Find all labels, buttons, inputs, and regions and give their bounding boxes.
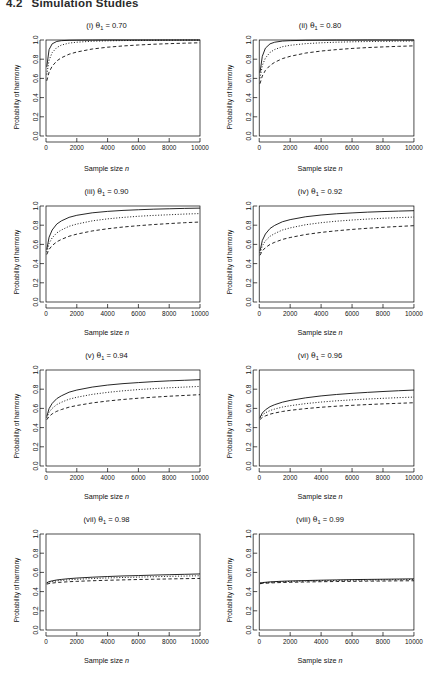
x-axis-tick-label: 6000 xyxy=(345,144,360,151)
panel-title: (iv) θ1 = 0.92 xyxy=(213,187,427,196)
panel-theta-subscript: 1 xyxy=(100,25,103,31)
panel-title: (viii) θ1 = 0.99 xyxy=(213,515,427,524)
x-axis-tick-label: 6000 xyxy=(131,638,146,645)
curve-dashed xyxy=(47,43,200,81)
curve-dashed xyxy=(260,46,414,84)
y-axis-tick-label: 0.8 xyxy=(245,548,252,557)
y-axis-tick-label: 0.2 xyxy=(32,606,39,615)
panel-theta-subscript: 1 xyxy=(317,519,320,525)
curve-dotted xyxy=(260,217,414,253)
x-axis-tick-label: 2000 xyxy=(70,474,85,481)
x-axis-tick-label: 4000 xyxy=(100,310,115,317)
panel-roman-numeral: (vi) xyxy=(298,351,311,360)
x-axis-tick-label: 4000 xyxy=(314,474,329,481)
x-axis-tick-label: 6000 xyxy=(345,638,360,645)
x-axis-tick-label: 8000 xyxy=(376,638,391,645)
x-axis-tick-label: 2000 xyxy=(70,310,85,317)
plot-area: 0.00.20.40.60.81.00200040006000800010000 xyxy=(213,362,427,494)
curve-solid xyxy=(260,390,414,417)
y-axis-tick-label: 1.0 xyxy=(32,201,39,210)
curve-dashed xyxy=(47,578,200,584)
curve-solid xyxy=(47,40,200,67)
x-axis-label-variable: n xyxy=(125,164,129,173)
x-axis-tick-label: 8000 xyxy=(162,474,177,481)
y-axis-tick-label: 1.0 xyxy=(245,529,252,538)
y-axis-tick-label: 0.6 xyxy=(32,240,39,249)
page-header: 4.2Simulation Studies xyxy=(6,0,139,9)
plot-area: 0.00.20.40.60.81.00200040006000800010000 xyxy=(0,198,213,330)
panel-theta-symbol: θ xyxy=(310,21,315,30)
plot-frame xyxy=(259,40,414,136)
panel-title: (vii) θ1 = 0.98 xyxy=(0,515,213,524)
x-axis-tick-label: 0 xyxy=(257,144,261,151)
y-axis-tick-label: 0.4 xyxy=(32,423,39,432)
panel-title: (ii) θ1 = 0.80 xyxy=(213,21,427,30)
x-axis-tick-label: 10000 xyxy=(191,310,209,317)
y-axis-tick-label: 0.4 xyxy=(245,259,252,268)
x-axis-tick-label: 2000 xyxy=(283,310,298,317)
y-axis-tick-label: 0.4 xyxy=(245,423,252,432)
y-axis-tick-label: 0.0 xyxy=(32,297,39,306)
x-axis-tick-label: 2000 xyxy=(283,144,298,151)
y-axis-tick-label: 0.8 xyxy=(32,548,39,557)
x-axis-tick-label: 4000 xyxy=(100,474,115,481)
x-axis-tick-label: 0 xyxy=(44,474,48,481)
y-axis-tick-label: 0.6 xyxy=(245,240,252,249)
plot-panel-5: (v) θ1 = 0.94Probability of harmonySampl… xyxy=(0,344,213,508)
panel-roman-numeral: (iii) xyxy=(84,187,97,196)
panel-theta-value: = 0.90 xyxy=(105,187,128,196)
section-number: 4.2 xyxy=(6,0,23,9)
x-axis-tick-label: 10000 xyxy=(405,474,423,481)
x-axis-tick-label: 2000 xyxy=(283,474,298,481)
x-axis-tick-label: 8000 xyxy=(162,638,177,645)
plot-panel-1: (i) θ1 = 0.70Probability of harmonySampl… xyxy=(0,14,213,180)
y-axis-tick-label: 0.4 xyxy=(32,259,39,268)
x-axis-label: Sample size n xyxy=(213,164,427,173)
y-axis-tick-label: 0.0 xyxy=(32,461,39,470)
plot-area: 0.00.20.40.60.81.00200040006000800010000 xyxy=(0,32,213,164)
plot-panel-3: (iii) θ1 = 0.90Probability of harmonySam… xyxy=(0,180,213,344)
x-axis-tick-label: 8000 xyxy=(376,310,391,317)
plot-frame xyxy=(259,370,414,466)
y-axis-tick-label: 1.0 xyxy=(245,201,252,210)
y-axis-tick-label: 0.0 xyxy=(32,625,39,634)
panel-roman-numeral: (i) xyxy=(86,21,95,30)
x-axis-tick-label: 10000 xyxy=(405,144,423,151)
y-axis-tick-label: 0.8 xyxy=(245,384,252,393)
x-axis-tick-label: 4000 xyxy=(100,638,115,645)
x-axis-label-text: Sample size xyxy=(84,164,125,173)
curve-dotted xyxy=(260,397,414,418)
plot-frame xyxy=(46,206,200,302)
x-axis-tick-label: 10000 xyxy=(191,474,209,481)
curve-dotted xyxy=(47,40,200,74)
y-axis-tick-label: 0.8 xyxy=(245,220,252,229)
x-axis-tick-label: 4000 xyxy=(314,310,329,317)
y-axis-tick-label: 0.8 xyxy=(32,54,39,63)
panel-roman-numeral: (v) xyxy=(85,351,96,360)
x-axis-tick-label: 8000 xyxy=(162,310,177,317)
panel-title: (iii) θ1 = 0.90 xyxy=(0,187,213,196)
y-axis-tick-label: 0.2 xyxy=(245,442,252,451)
y-axis-tick-label: 0.8 xyxy=(32,220,39,229)
x-axis-tick-label: 6000 xyxy=(131,144,146,151)
y-axis-tick-label: 0.6 xyxy=(245,74,252,83)
curve-dashed xyxy=(47,222,200,254)
y-axis-tick-label: 0.4 xyxy=(32,587,39,596)
plot-frame xyxy=(259,206,414,302)
y-axis-tick-label: 0.6 xyxy=(245,568,252,577)
panel-theta-subscript: 1 xyxy=(101,355,104,361)
x-axis-tick-label: 8000 xyxy=(376,144,391,151)
y-axis-tick-label: 0.6 xyxy=(32,404,39,413)
x-axis-tick-label: 6000 xyxy=(131,474,146,481)
x-axis-label-variable: n xyxy=(339,164,343,173)
panel-theta-value: = 0.99 xyxy=(321,515,344,524)
plot-frame xyxy=(46,370,200,466)
plot-panel-7: (vii) θ1 = 0.98Probability of harmonySam… xyxy=(0,508,213,672)
x-axis-tick-label: 0 xyxy=(257,638,261,645)
y-axis-tick-label: 0.0 xyxy=(245,625,252,634)
x-axis-tick-label: 0 xyxy=(257,474,261,481)
y-axis-tick-label: 0.6 xyxy=(32,568,39,577)
curve-dotted xyxy=(47,576,200,583)
curve-dashed xyxy=(260,403,414,420)
x-axis-tick-label: 4000 xyxy=(314,638,329,645)
